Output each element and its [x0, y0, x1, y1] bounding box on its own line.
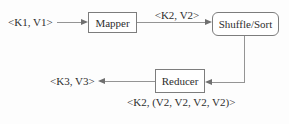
- reduce-input-pair-label: <K2, (V2, V2, V2, V2)>: [127, 96, 233, 108]
- input-pair-label: <K1, V1>: [8, 16, 53, 28]
- shuffle-sort-node-label: Shuffle/Sort: [219, 18, 273, 30]
- arrow-line-input-to-mapper: [57, 22, 82, 23]
- arrow-line-mapper-to-shuffle: [137, 22, 206, 23]
- arrowhead-shuffle-to-reducer: [205, 79, 212, 85]
- arrowhead-input-to-mapper: [81, 19, 88, 25]
- mapper-node-label: Mapper: [95, 17, 129, 29]
- arrowhead-mapper-to-shuffle: [205, 19, 212, 25]
- map-output-pair-label: <K2, V2>: [149, 9, 205, 21]
- mapper-node: Mapper: [88, 12, 137, 33]
- shuffle-sort-node: Shuffle/Sort: [212, 12, 279, 36]
- connector-shuffle-to-reducer-line: [212, 82, 245, 83]
- reducer-node: Reducer: [155, 69, 205, 93]
- final-output-pair-label: <K3, V3>: [50, 75, 95, 87]
- arrow-line-reducer-to-output: [105, 81, 155, 82]
- arrowhead-reducer-to-output: [98, 78, 105, 84]
- mapreduce-diagram: <K1, V1> Mapper <K2, V2> Shuffle/Sort Re…: [0, 0, 289, 124]
- connector-shuffle-down-line: [244, 36, 245, 82]
- reducer-node-label: Reducer: [162, 75, 199, 87]
